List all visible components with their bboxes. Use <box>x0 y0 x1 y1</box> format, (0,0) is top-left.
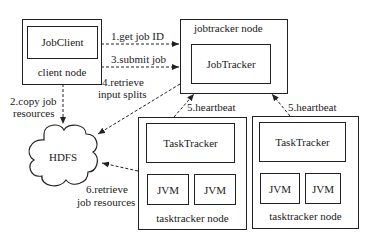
step-5-label-right: 5.heartbeat <box>288 101 337 113</box>
step-4-label-line2: input splits <box>98 88 147 100</box>
step-4-label-line1: 4.retrieve <box>102 76 144 88</box>
jvm-label-2b: JVM <box>305 183 341 195</box>
step-6-label-line1: 6.retrieve <box>86 183 128 195</box>
jobtracker-node-label: jobtracker node <box>194 22 263 34</box>
step-6-label-line2: job resources <box>77 196 135 208</box>
step-2-label-line1: 2.copy job <box>10 95 56 107</box>
client-node-label: client node <box>22 66 102 78</box>
jvm-label-1a: JVM <box>147 184 189 196</box>
step-2-label-line2: resources <box>13 107 55 119</box>
jobclient-label: JobClient <box>27 36 98 48</box>
jvm-label-1b: JVM <box>194 184 236 196</box>
tasktracker-label-2: TaskTracker <box>259 136 346 148</box>
tasktracker-node-label-2: tasktracker node <box>252 210 359 222</box>
step-5-label-left: 5.heartbeat <box>187 101 236 113</box>
jvm-label-2a: JVM <box>260 183 300 195</box>
mapreduce-job-run-diagram: JobClient client node jobtracker node Jo… <box>0 0 367 242</box>
tasktracker-label-1: TaskTracker <box>146 137 235 149</box>
hdfs-label: HDFS <box>40 151 86 163</box>
jobtracker-label: JobTracker <box>191 58 271 70</box>
step-3-label: 3.submit job <box>111 53 166 65</box>
step-1-label: 1.get job ID <box>111 30 164 42</box>
tasktracker-node-label-1: tasktracker node <box>138 212 247 224</box>
